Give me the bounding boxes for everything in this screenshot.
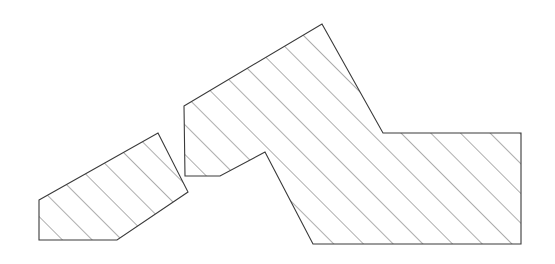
hatched-polygons-figure: hatched polygon figure Two hatched polyg…: [0, 0, 555, 264]
figure-canvas: hatched polygon figure Two hatched polyg…: [0, 0, 555, 264]
